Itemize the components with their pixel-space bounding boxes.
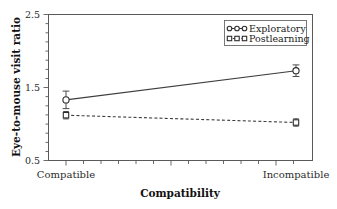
y-tick-label-1: 1.5: [25, 82, 40, 93]
y-axis-title: Eye-to-mouse visit ratio: [10, 17, 22, 157]
data-point-exploratory-compatible: [63, 97, 69, 103]
legend-marker-square-icon: [235, 36, 239, 40]
chart-figure: 2.5 1.5 0.5 Compatible Incompatible Comp…: [0, 0, 337, 209]
legend-marker-circle-icon: [242, 26, 247, 31]
data-point-exploratory-incompatible: [293, 68, 299, 74]
line-chart: 2.5 1.5 0.5 Compatible Incompatible Comp…: [0, 0, 337, 209]
legend-label-postlearning: Postlearning: [249, 33, 310, 44]
x-category-label-incompatible: Incompatible: [263, 169, 330, 180]
data-point-postlearning-compatible: [63, 113, 68, 118]
y-tick-label-0: 0.5: [25, 155, 40, 166]
x-axis-title: Compatibility: [140, 187, 221, 199]
legend-marker-circle-icon: [227, 26, 232, 31]
legend-marker-square-icon: [227, 36, 231, 40]
data-point-postlearning-incompatible: [293, 120, 298, 125]
chart-legend: Exploratory Postlearning: [225, 21, 310, 46]
x-category-label-compatible: Compatible: [37, 169, 95, 180]
legend-marker-square-icon: [242, 36, 246, 40]
legend-marker-circle-icon: [235, 26, 240, 31]
y-tick-label-2: 2.5: [25, 9, 40, 20]
